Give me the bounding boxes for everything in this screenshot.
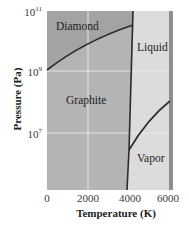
label-vapor: Vapor [137,153,164,165]
x-tick-4000: 4000 [112,193,148,204]
phase-diagram: 1011 109 107 0 2000 4000 6000 Diamond Li… [0,0,189,227]
label-graphite: Graphite [66,95,106,107]
label-diamond: Diamond [56,21,99,33]
label-liquid: Liquid [137,42,168,54]
x-tick-0: 0 [29,193,65,204]
x-axis-label: Temperature (K) [60,207,172,219]
x-tick-2000: 2000 [70,193,106,204]
x-tick-6000: 6000 [150,193,186,204]
y-axis-label: Pressure (Pa) [11,54,23,144]
y-tick-1e11: 1011 [8,6,42,18]
